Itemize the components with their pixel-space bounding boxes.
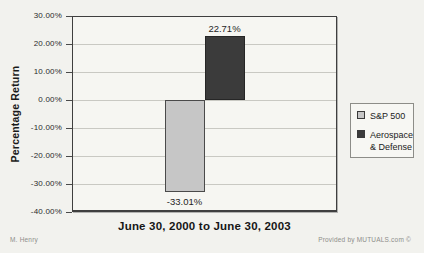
legend-swatch-icon-s-p-500 xyxy=(357,111,365,119)
legend-item-aerospace-defense: Aerospace & Defense xyxy=(357,129,413,153)
y-axis-tick-label: -10.00% xyxy=(4,123,62,132)
y-axis-tick-label: 0.00% xyxy=(4,95,62,104)
x-axis-title: June 30, 2000 to June 30, 2003 xyxy=(72,220,337,232)
author-credit: M. Henry xyxy=(10,236,38,243)
bar-s-p-500 xyxy=(165,100,205,192)
y-axis-tick xyxy=(66,16,72,17)
value-label-s-p-500: -33.01% xyxy=(150,196,220,207)
y-axis-tick-label: -30.00% xyxy=(4,179,62,188)
y-axis-tick xyxy=(66,156,72,157)
gridline xyxy=(73,128,336,129)
y-axis-tick xyxy=(66,212,72,213)
gridline xyxy=(73,184,336,185)
legend: S&P 500Aerospace & Defense xyxy=(350,103,414,158)
gridline xyxy=(73,100,336,101)
y-axis-tick-label: 30.00% xyxy=(4,11,62,20)
y-axis-tick xyxy=(66,128,72,129)
legend-item-s-p-500: S&P 500 xyxy=(357,110,413,122)
legend-swatch-icon-aerospace-defense xyxy=(357,130,365,138)
y-axis-tick xyxy=(66,100,72,101)
y-axis-tick xyxy=(66,44,72,45)
bar-aerospace-defense xyxy=(205,36,245,100)
y-axis-tick-label: 20.00% xyxy=(4,39,62,48)
y-axis-tick xyxy=(66,72,72,73)
legend-label-aerospace-defense: Aerospace & Defense xyxy=(370,129,413,153)
provider-credit: Provided by MUTUALS.com © xyxy=(318,236,411,243)
legend-label-s-p-500: S&P 500 xyxy=(370,110,405,122)
chart-container: Percentage Return June 30, 2000 to June … xyxy=(0,0,424,253)
y-axis-tick xyxy=(66,184,72,185)
gridline xyxy=(73,156,336,157)
y-axis-tick-label: 10.00% xyxy=(4,67,62,76)
value-label-aerospace-defense: 22.71% xyxy=(190,23,260,34)
y-axis-tick-label: -20.00% xyxy=(4,151,62,160)
y-axis-tick-label: -40.00% xyxy=(4,207,62,216)
